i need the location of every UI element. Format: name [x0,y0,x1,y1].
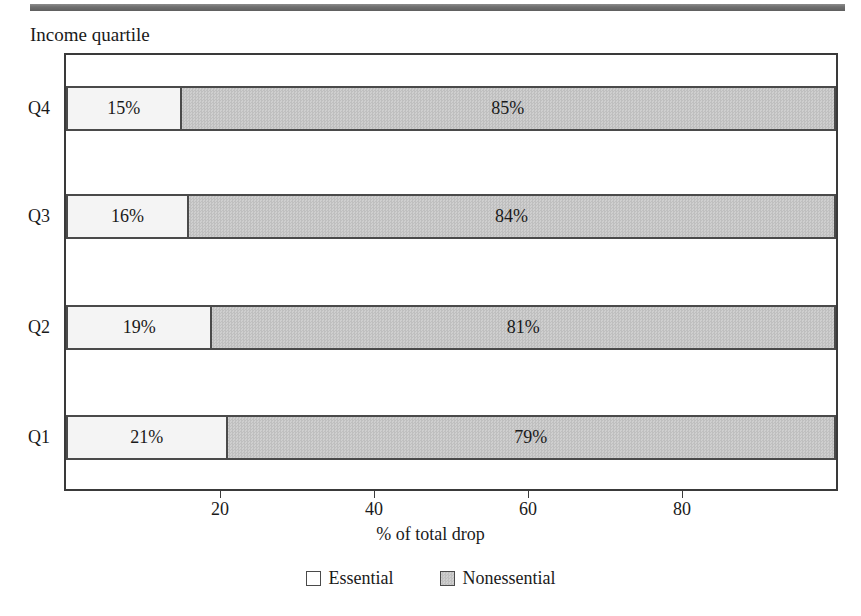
bar-label-essential: 19% [123,317,156,338]
x-axis-tick-label: 60 [519,499,537,520]
x-axis-tick-label: 20 [211,499,229,520]
y-axis-category-label: Q3 [28,206,60,227]
gray-square-icon [440,571,455,586]
x-axis-tick [374,491,375,498]
bar-row: 21%79% [66,415,836,460]
bar-segment-nonessential: 79% [228,415,836,460]
bar-segment-essential: 15% [66,86,182,131]
bar-row: 15%85% [66,86,836,131]
white-square-icon [306,571,321,586]
bar-segment-nonessential: 81% [212,305,836,350]
bar-segment-essential: 21% [66,415,228,460]
x-axis-title: % of total drop [0,524,861,545]
bar-row: 19%81% [66,305,836,350]
bar-segment-essential: 16% [66,194,189,239]
bar-label-nonessential: 81% [507,317,540,338]
x-axis-tick-label: 40 [365,499,383,520]
y-axis-title: Income quartile [30,24,150,46]
x-axis-tick-label: 80 [673,499,691,520]
x-axis-tick [528,491,529,498]
y-axis-category-label: Q4 [28,98,60,119]
bar-label-nonessential: 84% [495,206,528,227]
chart-legend: Essential Nonessential [0,568,861,589]
bar-segment-nonessential: 85% [182,86,837,131]
bar-label-essential: 21% [130,427,163,448]
legend-label-nonessential: Nonessential [463,568,556,589]
bar-label-essential: 15% [107,98,140,119]
x-axis-tick [682,491,683,498]
bar-row: 16%84% [66,194,836,239]
bar-label-nonessential: 85% [491,98,524,119]
legend-label-essential: Essential [329,568,394,589]
legend-item-nonessential: Nonessential [440,568,556,589]
header-rule [30,4,845,11]
legend-item-essential: Essential [306,568,394,589]
x-axis-tick [220,491,221,498]
y-axis-category-label: Q1 [28,427,60,448]
bar-segment-nonessential: 84% [189,194,836,239]
bar-label-essential: 16% [111,206,144,227]
bar-segment-essential: 19% [66,305,212,350]
plot-surface: 15%85%16%84%19%81%21%79% [66,55,836,489]
y-axis-category-label: Q2 [28,317,60,338]
bar-label-nonessential: 79% [514,427,547,448]
